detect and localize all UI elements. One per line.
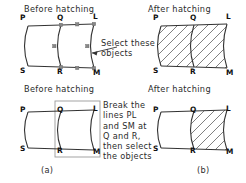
vertex-label-R-bottom-left: R: [57, 146, 63, 155]
figure-caption-a: (a): [41, 165, 53, 175]
arc-PS: [25, 26, 29, 66]
vertex-label-L-bottom-left: L: [93, 104, 98, 113]
figure-after-hatching-top: [155, 20, 233, 72]
vertex-label-M-top-left: M: [93, 68, 101, 77]
grip-RM-mid[interactable]: [76, 66, 79, 69]
vertex-label-Q-bottom-right: Q: [190, 105, 196, 114]
vertex-label-P-bottom-right: P: [153, 105, 159, 114]
figure-stage: Before hatching P Q L: [0, 0, 246, 183]
panel-caption-bottom-right: After hatching: [148, 84, 211, 94]
vertex-label-P-bottom-left: P: [20, 105, 26, 114]
figure-before-hatching-top: [22, 20, 100, 72]
vertex-label-Q-top-right: Q: [190, 13, 196, 22]
figure-caption-b: (b): [197, 165, 210, 175]
grip-QR-arc-mid[interactable]: [53, 44, 56, 47]
arc-QR: [58, 25, 62, 67]
arc-LM: [91, 110, 95, 150]
vertex-label-R-top-right: R: [190, 67, 196, 76]
arc-LM: [224, 110, 228, 150]
arc-LM: [224, 24, 228, 68]
vertex-label-M-bottom-left: M: [93, 147, 101, 156]
grip-LM-arc-mid[interactable]: [86, 44, 89, 47]
vertex-label-L-top-left: L: [93, 12, 98, 21]
grip-Q-top[interactable]: [59, 23, 62, 26]
arc-QR: [58, 111, 62, 149]
arc-PS: [25, 112, 29, 148]
arc-QR: [191, 111, 195, 149]
leader-arrowhead-icon: [92, 51, 98, 55]
annotation-break-lines: Break the lines PL and SM at Q and R, th…: [103, 100, 152, 162]
panel-caption-bottom-left: Before hatching: [24, 84, 94, 94]
grip-L[interactable]: [92, 22, 95, 25]
vertex-label-P-top-left: P: [20, 13, 26, 22]
vertex-label-S-top-left: S: [20, 66, 26, 75]
arc-QR: [191, 25, 195, 67]
vertex-label-R-top-left: R: [57, 67, 63, 76]
arc-LM: [91, 24, 95, 68]
grip-QL-mid[interactable]: [76, 23, 79, 26]
annotation-select-objects: Select these objects: [101, 38, 155, 59]
vertex-label-L-top-right: L: [226, 12, 231, 21]
vertex-label-S-bottom-left: S: [20, 144, 26, 153]
vertex-label-Q-bottom-left: Q: [57, 105, 63, 114]
vertex-label-S-bottom-right: S: [153, 144, 159, 153]
arc-PS: [158, 112, 162, 148]
vertex-label-M-top-right: M: [226, 68, 234, 77]
vertex-label-Q-top-left: Q: [57, 13, 63, 22]
vertex-label-M-bottom-right: M: [226, 147, 234, 156]
vertex-label-S-top-right: S: [153, 66, 159, 75]
vertex-label-L-bottom-right: L: [226, 104, 231, 113]
vertex-label-R-bottom-right: R: [190, 146, 196, 155]
vertex-label-P-top-right: P: [153, 13, 159, 22]
